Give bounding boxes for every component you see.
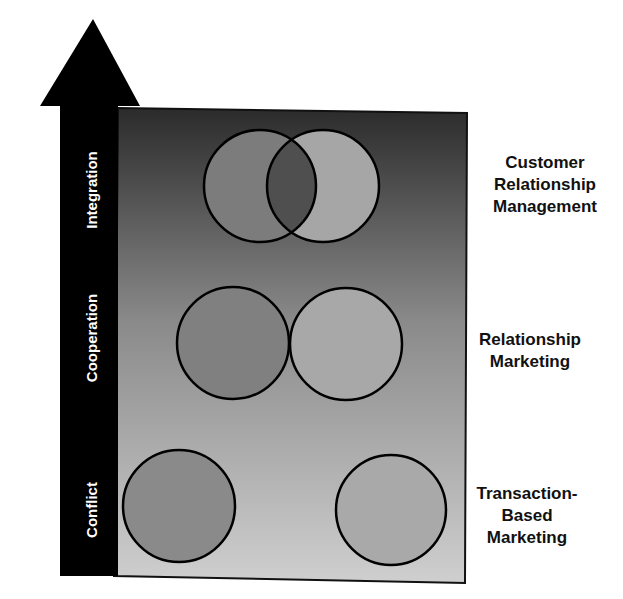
- label-line: Management: [470, 196, 620, 218]
- label-line: Marketing: [452, 527, 602, 549]
- label-line: Transaction-: [452, 483, 602, 505]
- label-crm: Customer Relationship Management: [470, 152, 620, 218]
- label-line: Relationship: [470, 174, 620, 196]
- label-line: Relationship: [455, 329, 605, 351]
- crm-circles: [204, 130, 379, 242]
- stage-label-conflict: Conflict: [83, 482, 100, 538]
- label-line: Customer: [470, 152, 620, 174]
- label-line: Marketing: [455, 351, 605, 373]
- label-transaction-marketing: Transaction- Based Marketing: [452, 483, 602, 549]
- label-line: Based: [452, 505, 602, 527]
- stage-label-integration: Integration: [83, 151, 100, 229]
- label-relationship-marketing: Relationship Marketing: [455, 329, 605, 373]
- stage-label-cooperation: Cooperation: [83, 294, 100, 382]
